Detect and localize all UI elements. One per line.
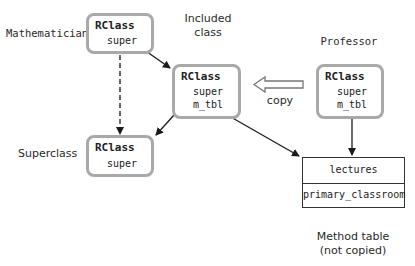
label-method-table-line1: Method table <box>310 230 396 244</box>
field-m-tbl: m_tbl <box>337 99 367 110</box>
method-table-row-lectures: lectures <box>303 164 404 175</box>
field-super: super <box>337 86 367 97</box>
label-superclass: Superclass <box>18 147 80 161</box>
label-included-line1: Included <box>180 12 236 26</box>
field-super: super <box>107 35 137 46</box>
copy-arrow-icon <box>254 77 303 92</box>
professor-rclass-box: RClass super m_tbl <box>316 64 384 119</box>
box-title: RClass <box>95 19 135 32</box>
field-super: super <box>193 86 223 97</box>
diagram-canvas: Mathematician Included class Professor S… <box>0 0 415 266</box>
superclass-rclass-box: RClass super <box>86 135 154 177</box>
box-title: RClass <box>95 141 135 154</box>
label-mathematician: Mathematician <box>6 26 82 40</box>
label-professor: Professor <box>316 34 382 48</box>
box-title: RClass <box>181 70 221 83</box>
field-super: super <box>107 158 137 169</box>
label-method-table-line2: (not copied) <box>310 244 396 258</box>
label-copy: copy <box>262 94 298 108</box>
method-table-divider <box>303 183 404 184</box>
box-title: RClass <box>325 70 365 83</box>
label-included-line2: class <box>180 26 236 40</box>
included-class-rclass-box: RClass super m_tbl <box>172 64 241 119</box>
method-table: lectures primary_classroom <box>302 157 405 208</box>
method-table-row-primary-classroom: primary_classroom <box>303 189 404 200</box>
mathematician-rclass-box: RClass super <box>86 13 154 54</box>
field-m-tbl: m_tbl <box>193 99 223 110</box>
